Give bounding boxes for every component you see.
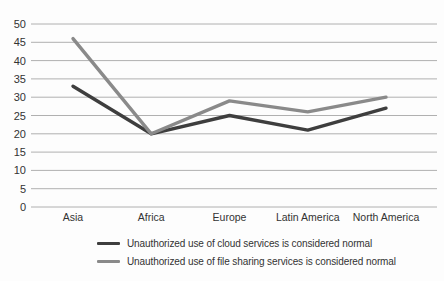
legend-label-file-sharing-services: Unauthorized use of file sharing service… [127, 256, 396, 267]
y-axis-tick-label: 5 [20, 183, 26, 195]
x-axis-category-label: Europe [213, 211, 247, 223]
x-axis-category-label: North America [353, 211, 420, 223]
y-axis-tick-label: 45 [14, 36, 26, 48]
x-axis-category-label: Africa [138, 211, 165, 223]
y-axis-tick-label: 50 [14, 18, 26, 30]
legend-label-cloud-services: Unauthorized use of cloud services is co… [127, 238, 372, 249]
y-axis-tick-label: 40 [14, 55, 26, 67]
x-axis-category-label: Asia [63, 211, 84, 223]
legend-item-file-sharing-services: Unauthorized use of file sharing service… [97, 256, 396, 267]
y-axis-tick-label: 10 [14, 164, 26, 176]
y-axis-tick-label: 0 [20, 201, 26, 213]
y-axis-tick-label: 35 [14, 73, 26, 85]
y-axis-tick-label: 25 [14, 110, 26, 122]
y-axis-tick-label: 15 [14, 146, 26, 158]
plot-area: 05101520253035404550AsiaAfricaEuropeLati… [0, 0, 444, 232]
x-axis-category-label: Latin America [276, 211, 340, 223]
y-axis-tick-label: 20 [14, 128, 26, 140]
line-chart-figure: 05101520253035404550AsiaAfricaEuropeLati… [0, 0, 444, 281]
y-axis-tick-label: 30 [14, 91, 26, 103]
series-line-file-sharing-services [73, 39, 386, 134]
chart-legend: Unauthorized use of cloud services is co… [97, 238, 396, 267]
legend-swatch-file-sharing-line [97, 260, 120, 263]
legend-swatch-cloud-line [97, 242, 120, 245]
legend-item-cloud-services: Unauthorized use of cloud services is co… [97, 238, 396, 249]
